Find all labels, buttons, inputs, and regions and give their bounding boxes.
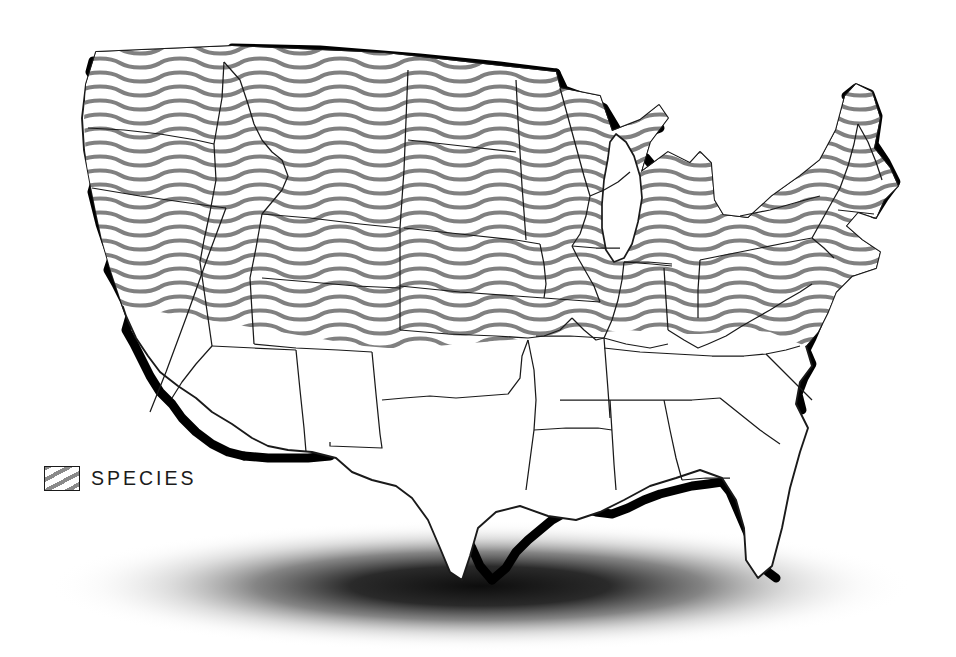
map-legend: SPECIES [44, 466, 197, 491]
legend-swatch-species [44, 466, 80, 491]
map-svg [0, 0, 956, 657]
map-drop-shadow [48, 520, 912, 652]
legend-label-species: SPECIES [91, 469, 197, 489]
hatch-pattern-icon [45, 467, 79, 490]
species-distribution-map: SPECIES [0, 0, 956, 657]
